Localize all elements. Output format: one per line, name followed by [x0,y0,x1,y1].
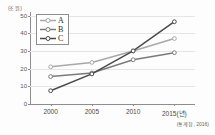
x-axis-tick-label: 2000 [43,108,57,115]
legend-marker-icon [39,34,57,43]
data-point-C [90,72,94,76]
legend-label: C [58,34,63,43]
legend-item-B[interactable]: B [39,25,64,34]
y-axis-tick-label: 50 [20,13,27,19]
y-axis-tick-label: 20 [20,66,27,72]
data-point-A [49,65,53,69]
x-axis-tick-mark [133,104,134,106]
y-axis-tick-mark [28,104,30,105]
x-axis-tick-label: 2010 [126,108,140,115]
x-axis-tick-mark [92,104,93,106]
legend-label: A [58,16,64,25]
data-point-B [49,75,53,79]
data-point-B [172,51,176,55]
y-axis-tick-label: 0 [24,101,27,107]
y-axis-tick-label: 10 [20,83,27,89]
legend-marker-icon [39,25,57,34]
legend-item-A[interactable]: A [39,16,64,25]
y-axis-tick-label: 30 [20,48,27,54]
line-chart: (조 원) 01020304050 2000200520102015(년) AB… [0,0,215,135]
data-point-A [90,61,94,65]
legend-marker-icon [39,16,57,25]
x-axis-tick-label: 2005 [85,108,99,115]
data-point-B [131,58,135,62]
x-axis-tick-mark [174,104,175,106]
legend-label: B [58,25,63,34]
y-axis-unit-label: (조 원) [8,4,22,11]
data-point-A [172,37,176,41]
legend-item-C[interactable]: C [39,34,64,43]
x-axis-tick-label: 2015(년) [162,108,187,118]
x-axis-tick-mark [51,104,52,106]
data-point-C [49,89,53,93]
source-note: (통계청, 2016) [177,120,209,127]
x-axis-line [30,104,195,105]
data-point-C [131,49,135,53]
data-point-C [172,20,176,24]
legend: ABC [36,14,69,45]
y-axis-tick-label: 40 [20,30,27,36]
